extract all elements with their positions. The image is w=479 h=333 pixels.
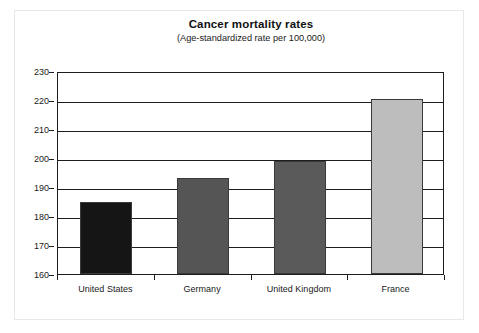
chart-subtitle: (Age-standardized rate per 100,000) (57, 32, 445, 45)
x-tick-label: United Kingdom (267, 284, 331, 294)
y-tick-mark (49, 159, 54, 160)
x-tick-mark (347, 275, 348, 280)
x-axis-labels: United StatesGermanyUnited KingdomFrance (57, 284, 444, 300)
y-tick-label: 190 (9, 183, 49, 193)
bar (177, 178, 229, 274)
y-tick-mark (49, 130, 54, 131)
x-tick-mark (251, 275, 252, 280)
title-block: Cancer mortality rates (Age-standardized… (57, 17, 445, 45)
x-axis-ticks (57, 275, 444, 281)
y-tick-label: 200 (9, 154, 49, 164)
y-tick-label: 160 (9, 270, 49, 280)
chart-title: Cancer mortality rates (57, 17, 445, 31)
y-tick-label: 230 (9, 67, 49, 77)
y-tick-mark (49, 217, 54, 218)
y-tick-mark (49, 101, 54, 102)
y-tick-label: 180 (9, 212, 49, 222)
y-tick-label: 220 (9, 96, 49, 106)
y-tick-label: 170 (9, 241, 49, 251)
x-tick-mark (154, 275, 155, 280)
x-tick-mark (57, 275, 58, 280)
y-tick-mark (49, 72, 54, 73)
chart-page: Cancer mortality rates (Age-standardized… (0, 0, 479, 333)
x-tick-label: France (382, 284, 410, 294)
x-tick-mark (444, 275, 445, 280)
y-tick-mark (49, 246, 54, 247)
x-tick-label: Germany (184, 284, 221, 294)
x-tick-label: United States (78, 284, 132, 294)
y-axis-labels: 160170180190200210220230 (8, 72, 49, 275)
bar (371, 99, 423, 274)
y-tick-mark (49, 188, 54, 189)
bar (274, 161, 326, 274)
bar (80, 202, 132, 275)
y-tick-mark (49, 275, 54, 276)
y-tick-label: 210 (9, 125, 49, 135)
plot-area (57, 72, 444, 275)
